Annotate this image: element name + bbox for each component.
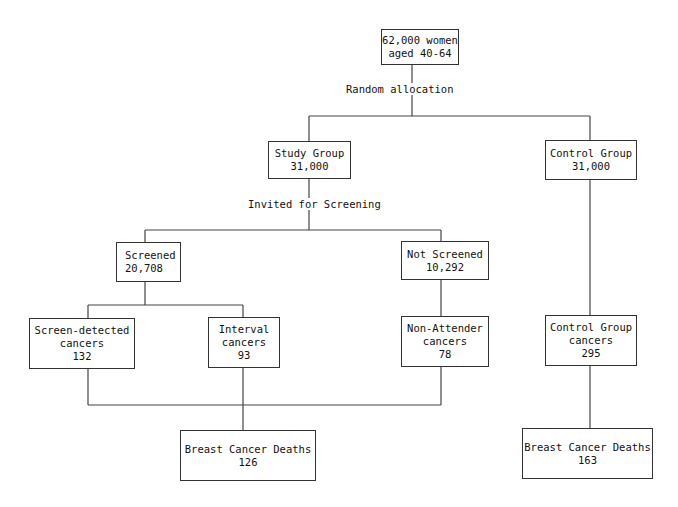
node-screen-detected-line2: cancers bbox=[60, 337, 104, 350]
node-control-group-line2: 31,000 bbox=[572, 160, 610, 173]
node-population: 62,000 women aged 40-64 bbox=[381, 29, 459, 65]
node-control-deaths-line1: Breast Cancer Deaths bbox=[524, 441, 650, 454]
node-control-group-line1: Control Group bbox=[550, 147, 632, 160]
node-interval: Interval cancers 93 bbox=[208, 317, 280, 368]
node-population-line2: aged 40-64 bbox=[388, 47, 451, 60]
node-interval-line3: 93 bbox=[238, 349, 251, 362]
node-control-cancers: Control Group cancers 295 bbox=[545, 315, 637, 366]
node-non-attender-line2: cancers bbox=[423, 335, 467, 348]
node-non-attender: Non-Attender cancers 78 bbox=[401, 316, 489, 367]
node-study-group-line1: Study Group bbox=[275, 147, 345, 160]
node-screened-line1: Screened bbox=[125, 249, 176, 262]
edge-label-invited: Invited for Screening bbox=[247, 198, 382, 210]
node-population-line1: 62,000 women bbox=[382, 34, 458, 47]
node-study-deaths-line2: 126 bbox=[239, 456, 258, 469]
node-not-screened: Not Screened 10,292 bbox=[401, 241, 489, 280]
node-non-attender-line1: Non-Attender bbox=[407, 322, 483, 335]
node-interval-line2: cancers bbox=[222, 336, 266, 349]
node-study-group: Study Group 31,000 bbox=[268, 141, 351, 179]
node-study-deaths: Breast Cancer Deaths 126 bbox=[180, 430, 316, 481]
node-control-group: Control Group 31,000 bbox=[545, 140, 637, 180]
node-screen-detected: Screen-detected cancers 132 bbox=[29, 318, 135, 369]
node-interval-line1: Interval bbox=[219, 323, 270, 336]
node-screened-line2: 20,708 bbox=[125, 262, 163, 275]
node-control-deaths: Breast Cancer Deaths 163 bbox=[522, 428, 653, 479]
node-screen-detected-line1: Screen-detected bbox=[35, 324, 130, 337]
node-screened: Screened 20,708 bbox=[116, 242, 181, 282]
edge-label-random-allocation: Random allocation bbox=[345, 83, 454, 95]
node-study-deaths-line1: Breast Cancer Deaths bbox=[185, 443, 311, 456]
node-control-cancers-line1: Control Group bbox=[550, 321, 632, 334]
node-non-attender-line3: 78 bbox=[439, 348, 452, 361]
node-screen-detected-line3: 132 bbox=[73, 350, 92, 363]
node-not-screened-line1: Not Screened bbox=[407, 248, 483, 261]
node-control-cancers-line2: cancers bbox=[569, 334, 613, 347]
node-not-screened-line2: 10,292 bbox=[426, 261, 464, 274]
node-control-deaths-line2: 163 bbox=[578, 454, 597, 467]
node-study-group-line2: 31,000 bbox=[291, 160, 329, 173]
node-control-cancers-line3: 295 bbox=[582, 347, 601, 360]
